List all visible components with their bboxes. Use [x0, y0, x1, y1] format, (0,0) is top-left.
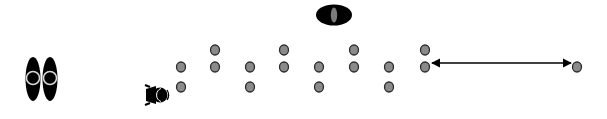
marker-dot [246, 82, 255, 92]
oval-shape [26, 57, 41, 101]
marker-dot [280, 45, 289, 55]
marker-dot [421, 45, 430, 55]
marker-dot [350, 45, 359, 55]
marker-dot [573, 62, 582, 72]
marker-dot [350, 62, 359, 72]
marker-dot [211, 45, 220, 55]
person-topdown-icon [145, 85, 169, 105]
dot-grid [177, 45, 582, 92]
marker-dot [211, 62, 220, 72]
eye-oval-icon [316, 5, 352, 26]
marker-dot [385, 62, 394, 72]
marker-dot [246, 62, 255, 72]
marker-dot [280, 62, 289, 72]
oval-shape [43, 57, 58, 101]
marker-dot [421, 62, 430, 72]
marker-dot [385, 82, 394, 92]
double-oval-icon [26, 57, 58, 101]
diagram-svg [0, 0, 607, 119]
marker-dot [177, 82, 186, 92]
diagram-canvas [0, 0, 607, 119]
marker-dot [177, 62, 186, 72]
marker-dot [315, 62, 324, 72]
marker-dot [315, 82, 324, 92]
